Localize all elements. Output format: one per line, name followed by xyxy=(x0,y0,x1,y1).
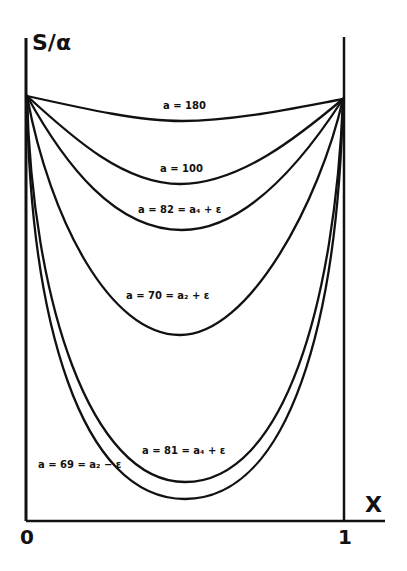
label-a69: a = 69 = a₂ − ε xyxy=(38,459,121,470)
curve-a81 xyxy=(27,96,343,482)
label-a180: a = 180 xyxy=(163,100,206,111)
label-a82: a = 82 = a₄ + ε xyxy=(138,204,221,215)
y-axis-title: S/α xyxy=(32,30,71,55)
x-tick-1: 1 xyxy=(338,525,352,549)
x-axis-title: X xyxy=(365,492,382,517)
chart-canvas xyxy=(0,0,407,571)
x-tick-0: 0 xyxy=(20,525,34,549)
label-a81: a = 81 = a₄ + ε xyxy=(142,445,225,456)
label-a100: a = 100 xyxy=(160,163,203,174)
label-a70: a = 70 = a₂ + ε xyxy=(126,290,209,301)
